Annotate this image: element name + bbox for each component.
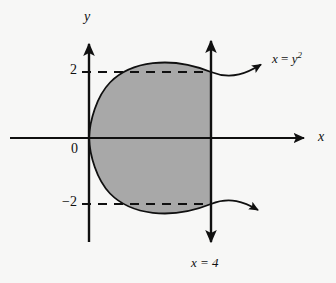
y-tick-label-negative-2: −2 — [62, 195, 77, 209]
x-axis-label: x — [318, 130, 324, 144]
parabola-equation-label: x = y2 — [272, 51, 302, 65]
figure-canvas: y x 0 2 −2 x = y2 x = 4 — [0, 0, 336, 283]
vertical-line-equation-label: x = 4 — [191, 256, 219, 269]
parabola-label-exponent: 2 — [297, 50, 301, 60]
y-tick-label-2: 2 — [70, 63, 77, 77]
graph-svg — [0, 0, 336, 283]
origin-label: 0 — [71, 142, 78, 156]
y-axis-label: y — [84, 10, 90, 24]
parabola-label-equals: = — [278, 51, 292, 66]
